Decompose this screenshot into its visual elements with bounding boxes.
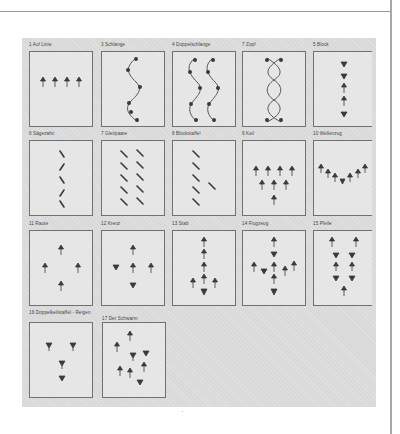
formation-diagram xyxy=(243,231,305,305)
figure-plate: 1 Auf Linie 3 Schlange 4 Doppelschlange xyxy=(22,38,376,407)
formation-box xyxy=(102,322,166,398)
panel-raute: 11 Raute xyxy=(29,221,93,307)
formation-box xyxy=(172,51,236,127)
formation-diagram xyxy=(102,231,164,305)
formation-diagram xyxy=(103,323,165,397)
scan-speck xyxy=(182,411,183,412)
formation-box xyxy=(29,230,93,306)
formation-box xyxy=(242,51,306,127)
panel-label: 7 Gleitpaare xyxy=(101,131,127,136)
panel-label: 14 Flugzeug xyxy=(242,221,268,226)
panel-block: 5 Block xyxy=(313,42,375,128)
panel-doppelschlange: 4 Doppelschlange xyxy=(172,42,236,128)
panel-flugzeug: 14 Flugzeug xyxy=(242,221,306,307)
formation-diagram xyxy=(102,141,164,215)
formation-diagram xyxy=(30,52,92,126)
formation-box xyxy=(101,140,165,216)
formation-diagram xyxy=(243,52,305,126)
panel-doppelkeilstaffel: 16 Doppelkeilstaffel - Reigen xyxy=(29,310,95,402)
formation-diagram xyxy=(173,52,235,126)
panel-label: 3 Schlange xyxy=(101,42,125,47)
formation-diagram xyxy=(102,52,164,126)
formation-diagram xyxy=(173,141,235,215)
formation-diagram xyxy=(30,323,92,397)
formation-diagram xyxy=(243,141,305,215)
formation-box xyxy=(29,322,93,398)
formation-box xyxy=(172,140,236,216)
panel-label: 12 Kreuz xyxy=(101,221,120,226)
panel-label: 13 Stab xyxy=(172,221,189,226)
formation-box xyxy=(313,230,372,306)
panel-schwarm: 17 Der Schwarm xyxy=(102,310,166,402)
formation-box xyxy=(313,140,372,216)
panel-wellenzug: 10 Wellenzug xyxy=(313,131,375,217)
panel-label: 5 Block xyxy=(313,42,329,47)
formation-box xyxy=(101,230,165,306)
formation-box xyxy=(29,51,93,127)
panel-label: 17 Der Schwarm xyxy=(102,316,138,321)
panel-label: 1 Auf Linie xyxy=(29,42,52,47)
panel-label: 4 Doppelschlange xyxy=(172,42,210,47)
panel-gleitpaare: 7 Gleitpaare xyxy=(101,131,165,217)
formation-diagram xyxy=(30,231,92,305)
panel-label: 9 Keil xyxy=(242,131,254,136)
panel-label: 7 Zopf xyxy=(242,42,256,47)
panel-auf-linie: 1 Auf Linie xyxy=(29,42,93,128)
panel-zopf: 7 Zopf xyxy=(242,42,306,128)
formation-diagram xyxy=(314,231,372,305)
panel-label: 6 Sägezahn xyxy=(29,131,55,136)
formation-diagram xyxy=(30,141,92,215)
panel-label: 11 Raute xyxy=(29,221,48,226)
panel-label: 10 Wellenzug xyxy=(313,131,342,136)
panel-keil: 9 Keil xyxy=(242,131,306,217)
formation-diagram xyxy=(314,52,372,126)
formation-box xyxy=(29,140,93,216)
panel-kreuz: 12 Kreuz xyxy=(101,221,165,307)
panel-blockstaffel: 8 Blockstaffel xyxy=(172,131,236,217)
panel-label: 8 Blockstaffel xyxy=(172,131,201,136)
panel-saegezahn: 6 Sägezahn xyxy=(29,131,93,217)
formation-box xyxy=(242,230,306,306)
page-top-rule xyxy=(0,11,392,12)
formation-box xyxy=(101,51,165,127)
panel-pfeile: 15 Pfeile xyxy=(313,221,375,307)
formation-box xyxy=(172,230,236,306)
formation-box xyxy=(242,140,306,216)
formation-box xyxy=(313,51,372,127)
panel-stab: 13 Stab xyxy=(172,221,236,307)
page-right-edge xyxy=(390,0,392,434)
panel-schlange: 3 Schlange xyxy=(101,42,165,128)
formation-diagram xyxy=(314,141,372,215)
panel-label: 16 Doppelkeilstaffel - Reigen xyxy=(29,310,95,315)
formation-diagram xyxy=(173,231,235,305)
panel-label: 15 Pfeile xyxy=(313,221,332,226)
